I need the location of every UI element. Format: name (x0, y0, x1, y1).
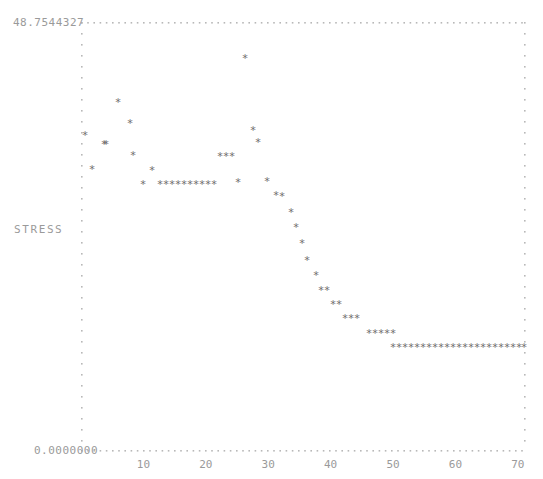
data-point-marker: * (521, 341, 528, 354)
data-point-marker: * (313, 269, 320, 282)
data-point-marker: * (390, 327, 397, 340)
x-axis-tick-label-30: 30 (262, 459, 275, 470)
data-point-marker: * (130, 149, 137, 162)
data-point-marker: * (242, 52, 249, 65)
data-point-marker: * (336, 298, 343, 311)
data-point-marker: * (324, 284, 331, 297)
data-point-marker: * (293, 221, 300, 234)
x-axis-tick-label-10: 10 (137, 459, 150, 470)
x-axis-tick-label-50: 50 (386, 459, 399, 470)
data-point-marker: * (304, 254, 311, 267)
data-point-marker: * (149, 164, 156, 177)
data-point-marker: * (89, 163, 96, 176)
data-point-marker: * (279, 190, 286, 203)
data-point-marker: * (235, 176, 242, 189)
data-point-marker: * (127, 117, 134, 130)
data-point-marker: * (140, 178, 147, 191)
x-axis-tick-label-20: 20 (199, 459, 212, 470)
data-point-marker: * (103, 138, 110, 151)
data-point-marker: * (211, 178, 218, 191)
data-point-marker: * (288, 206, 295, 219)
plot-canvas: ****************************************… (0, 0, 543, 479)
data-point-marker: * (354, 312, 361, 325)
x-axis-tick-label-70: 70 (511, 459, 524, 470)
stress-scatter-plot: ****************************************… (0, 0, 543, 479)
y-axis-min-label: 0.0000000 (34, 445, 98, 456)
data-point-marker: * (229, 150, 236, 163)
data-point-marker: * (264, 175, 271, 188)
data-point-marker: * (82, 129, 89, 142)
data-point-marker: * (255, 136, 262, 149)
data-points-layer: ****************************************… (82, 52, 528, 354)
data-point-marker: * (299, 237, 306, 250)
y-axis-max-label: 48.7544327 (13, 17, 84, 28)
x-axis-tick-label-40: 40 (324, 459, 337, 470)
data-point-marker: * (115, 96, 122, 109)
x-axis-tick-label-60: 60 (449, 459, 462, 470)
y-axis-title: STRESS (14, 224, 63, 235)
